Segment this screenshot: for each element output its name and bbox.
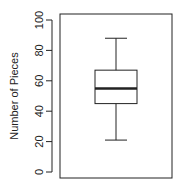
box-group [95, 38, 137, 140]
box-plot-chart: 020406080100 Number of Pieces [0, 0, 182, 188]
iqr-box [95, 70, 137, 103]
y-tick-label: 100 [33, 11, 45, 29]
y-tick-label: 60 [33, 75, 45, 87]
y-tick-label: 40 [33, 105, 45, 117]
y-tick-label: 80 [33, 44, 45, 56]
y-axis-ticks: 020406080100 [33, 11, 52, 175]
y-tick-label: 0 [33, 169, 45, 175]
y-axis-title: Number of Pieces [8, 52, 20, 140]
y-tick-label: 20 [33, 135, 45, 147]
